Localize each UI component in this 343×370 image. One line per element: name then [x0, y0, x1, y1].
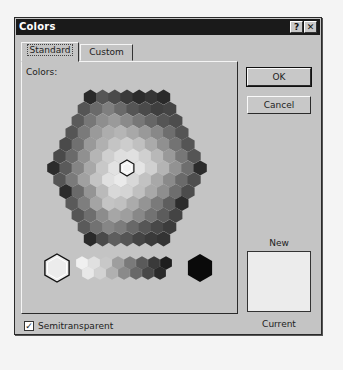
- white-hex-inner: [48, 257, 67, 279]
- tab-standard-label: Standard: [27, 44, 74, 56]
- tab-standard[interactable]: Standard: [21, 42, 79, 62]
- black-hex[interactable]: [188, 254, 212, 282]
